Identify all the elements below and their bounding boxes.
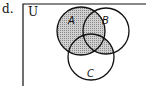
- set-c-label: C: [87, 68, 94, 79]
- set-b-label: B: [102, 15, 109, 26]
- universe-label: U: [28, 5, 38, 19]
- venn-diagram: d. U A B C: [0, 0, 146, 86]
- problem-label: d.: [2, 2, 14, 16]
- set-a-label: A: [67, 15, 75, 26]
